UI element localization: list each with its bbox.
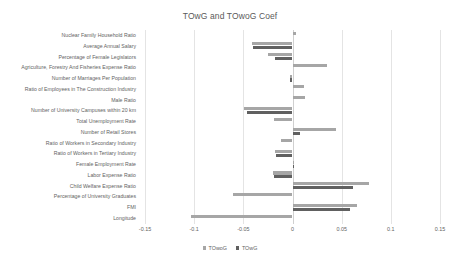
axis-tick-label: -0.1 [190, 226, 199, 232]
bar-row [145, 127, 440, 138]
chart-container: TOwG and TOwoG Coef Nuclear Family House… [0, 0, 460, 269]
category-label: Female Employment Rate [0, 159, 140, 170]
value-axis: -0.15-0.1-0.0500.050.10.15 [145, 224, 440, 236]
bar-towog [293, 96, 306, 99]
gridline [440, 30, 441, 224]
bar-row [145, 41, 440, 52]
bar-towog [293, 161, 294, 164]
category-label: Percentage of Female Legislators [0, 52, 140, 63]
legend-item[interactable]: TOwoG [203, 245, 227, 251]
category-axis-labels: Nuclear Family Household RatioAverage An… [0, 30, 140, 224]
legend-swatch-icon [203, 246, 206, 249]
bar-row [145, 202, 440, 213]
axis-tick-label: 0.15 [435, 226, 446, 232]
category-label: Ratio of Workers in Secondary Industry [0, 138, 140, 149]
bar-towog [274, 118, 293, 121]
bar-row [145, 181, 440, 192]
category-label: Percentage of University Graduates [0, 191, 140, 202]
bar-towog [293, 204, 358, 207]
bar-towog [293, 85, 305, 88]
category-label: Child Welfare Expense Ratio [0, 181, 140, 192]
bar-towg [274, 175, 293, 178]
bar-row [145, 95, 440, 106]
category-label: Labor Expense Ratio [0, 170, 140, 181]
bar-towog [252, 42, 292, 45]
category-label: Number of University Campuses within 20 … [0, 105, 140, 116]
bar-towog [244, 107, 292, 110]
bar-row [145, 116, 440, 127]
axis-tick-label: 0.05 [336, 226, 347, 232]
bar-row [145, 62, 440, 73]
bar-towog [191, 215, 292, 218]
bar-row [145, 148, 440, 159]
category-label: Nuclear Family Household Ratio [0, 30, 140, 41]
bar-towg [293, 132, 301, 135]
category-label: Ratio of Workers in Tertiary Industry [0, 148, 140, 159]
bar-towog [281, 139, 293, 142]
bar-row [145, 84, 440, 95]
bar-rows [145, 30, 440, 224]
bar-towg [247, 111, 292, 114]
category-label: Number of Retail Stores [0, 127, 140, 138]
category-label: Average Annual Salary [0, 41, 140, 52]
chart-title: TOwG and TOwoG Coef [0, 11, 460, 21]
bar-towog [293, 64, 327, 67]
bar-row [145, 30, 440, 41]
bar-towg [293, 165, 294, 168]
plot-area [145, 30, 440, 224]
legend-label: TOwoG [209, 245, 227, 251]
bar-towog [293, 128, 336, 131]
bar-towog [290, 75, 293, 78]
bar-towog [268, 53, 293, 56]
bar-towg [253, 46, 292, 49]
axis-tick-label: -0.05 [237, 226, 249, 232]
bar-towg [275, 57, 293, 60]
bar-row [145, 138, 440, 149]
category-label: Number of Marriages Per Population [0, 73, 140, 84]
legend-swatch-icon [236, 246, 239, 249]
chart-legend: TOwoGTOwG [0, 245, 460, 251]
category-label: Ratio of Employees in The Construction I… [0, 84, 140, 95]
category-label: Male Ratio [0, 95, 140, 106]
bar-towog [233, 193, 293, 196]
bar-row [145, 191, 440, 202]
bar-towg [276, 154, 293, 157]
category-label: FMI [0, 202, 140, 213]
bar-row [145, 52, 440, 63]
category-label: Agriculture, Forestry And Fisheries Expe… [0, 62, 140, 73]
bar-towg [290, 78, 293, 81]
bar-towg [293, 208, 350, 211]
bar-row [145, 213, 440, 224]
axis-tick-label: 0 [291, 226, 294, 232]
category-label: Total Unemployment Rate [0, 116, 140, 127]
bar-row [145, 105, 440, 116]
bar-towog [293, 32, 297, 35]
legend-item[interactable]: TOwG [236, 245, 257, 251]
category-label: Longitude [0, 213, 140, 224]
bar-row [145, 159, 440, 170]
axis-tick-label: 0.1 [387, 226, 395, 232]
bar-towog [273, 171, 293, 174]
bar-towog [293, 182, 370, 185]
legend-label: TOwG [242, 245, 257, 251]
bar-towg [293, 186, 354, 189]
bar-towog [275, 150, 293, 153]
bar-row [145, 170, 440, 181]
axis-tick-label: -0.15 [139, 226, 151, 232]
bar-row [145, 73, 440, 84]
